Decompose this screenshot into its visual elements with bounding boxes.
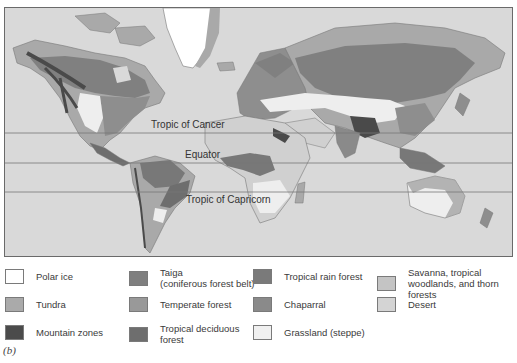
tropical-deciduous-swatch xyxy=(129,327,148,342)
legend-label: Mountain zones xyxy=(36,327,103,338)
legend: Polar ice Tundra Mountain zones Taiga(co… xyxy=(0,266,517,346)
grassland-swatch xyxy=(253,325,272,340)
legend-label: Chaparral xyxy=(284,299,326,310)
tundra-swatch xyxy=(5,297,24,312)
savanna-swatch xyxy=(377,276,396,291)
legend-item-savanna: Savanna, tropicalwoodlands, and thorn fo… xyxy=(377,267,517,300)
polar-ice-swatch xyxy=(5,269,24,284)
legend-label: Tropical rain forest xyxy=(284,271,362,282)
legend-label: Grassland (steppe) xyxy=(284,327,365,338)
tropical-rain-forest-swatch xyxy=(253,269,272,284)
tropic-of-capricorn-label: Tropic of Capricorn xyxy=(186,194,271,205)
legend-item-chaparral: Chaparral xyxy=(253,297,326,312)
chaparral-swatch xyxy=(253,297,272,312)
legend-label: Desert xyxy=(408,299,436,310)
world-biome-map: Tropic of Cancer Equator Tropic of Capri… xyxy=(4,7,513,257)
temperate-forest-swatch xyxy=(129,297,148,312)
tropic-of-cancer-label: Tropic of Cancer xyxy=(151,119,225,130)
mountain-zones-swatch xyxy=(5,325,24,340)
legend-item-mountain-zones: Mountain zones xyxy=(5,325,103,340)
legend-item-polar-ice: Polar ice xyxy=(5,269,73,284)
taiga-swatch xyxy=(129,271,148,286)
figure-caption: (b) xyxy=(3,344,16,356)
legend-item-grassland: Grassland (steppe) xyxy=(253,325,365,340)
map-graphic xyxy=(5,8,513,257)
legend-label: Tropical deciduousforest xyxy=(160,323,239,345)
legend-item-tropical-rain-forest: Tropical rain forest xyxy=(253,269,362,284)
legend-label: Taiga(coniferous forest belt) xyxy=(160,267,255,289)
legend-item-desert: Desert xyxy=(377,297,436,312)
legend-label: Savanna, tropicalwoodlands, and thorn fo… xyxy=(408,267,517,300)
legend-item-taiga: Taiga(coniferous forest belt) xyxy=(129,267,255,289)
legend-label: Tundra xyxy=(36,299,66,310)
legend-label: Polar ice xyxy=(36,271,73,282)
equator-label: Equator xyxy=(185,149,220,160)
legend-item-tundra: Tundra xyxy=(5,297,66,312)
desert-swatch xyxy=(377,297,396,312)
legend-item-tropical-deciduous-forest: Tropical deciduousforest xyxy=(129,323,239,345)
legend-item-temperate-forest: Temperate forest xyxy=(129,297,231,312)
legend-label: Temperate forest xyxy=(160,299,231,310)
